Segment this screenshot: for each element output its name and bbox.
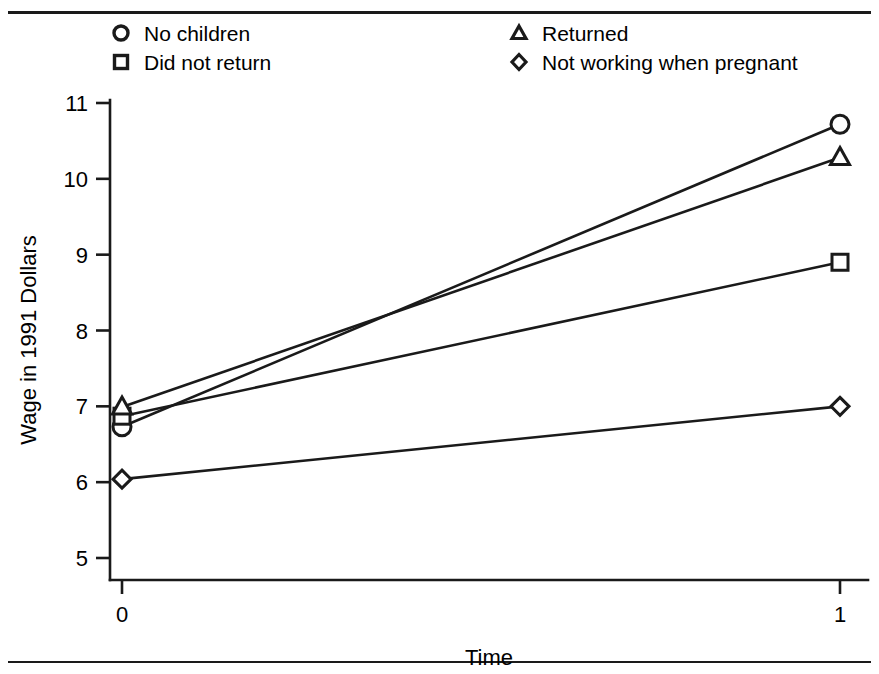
y-tick-label: 10 (64, 167, 88, 192)
series-lines-group (122, 124, 840, 479)
x-axis-title: Time (465, 645, 513, 670)
figure-container: No children Did not return Returned (0, 0, 879, 674)
y-tick-label: 6 (76, 470, 88, 495)
y-axis-ticks (96, 103, 110, 558)
x-axis-tick-labels: 01 (116, 602, 846, 627)
series-markers-group (113, 115, 850, 488)
data-point-marker (113, 470, 131, 488)
x-axis-ticks (122, 580, 840, 594)
y-tick-label: 5 (76, 546, 88, 571)
data-point-marker (831, 397, 849, 415)
series-line (122, 262, 840, 416)
data-point-marker (831, 115, 849, 133)
y-axis-tick-labels: 567891011 (64, 91, 88, 571)
chart-svg: 567891011 01 Time Wage in 1991 Dollars (0, 0, 879, 674)
y-tick-label: 8 (76, 319, 88, 344)
y-axis-title: Wage in 1991 Dollars (16, 235, 41, 445)
y-tick-label: 11 (65, 91, 88, 116)
chart-axes (110, 100, 868, 580)
series-line (122, 406, 840, 479)
data-point-marker (831, 148, 850, 165)
data-point-marker (832, 254, 848, 270)
x-tick-label: 0 (116, 602, 128, 627)
x-tick-label: 1 (834, 602, 846, 627)
y-tick-label: 7 (76, 394, 88, 419)
y-tick-label: 9 (76, 243, 88, 268)
series-line (122, 158, 840, 407)
line-chart-plot: 567891011 01 Time Wage in 1991 Dollars (0, 0, 879, 674)
series-line (122, 124, 840, 427)
